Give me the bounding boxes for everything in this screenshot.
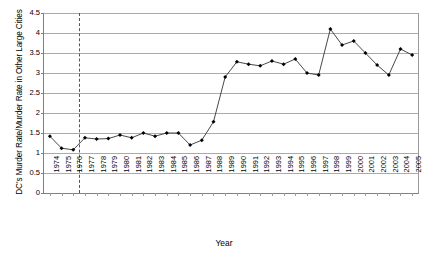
x-tick-label: 1984 [170,156,178,196]
data-point-marker [95,137,99,141]
y-tick-label: 0.5 [18,169,40,177]
x-tick-label: 2004 [403,156,411,196]
data-point-marker [153,134,157,138]
x-tick-label: 1986 [193,156,201,196]
x-tick-label: 1989 [228,156,236,196]
data-point-marker [247,62,251,66]
data-point-marker [165,131,169,135]
x-tick-label: 1993 [275,156,283,196]
x-tick-label: 1977 [88,156,96,196]
x-tick-label: 1992 [263,156,271,196]
y-tick-label: 4.5 [18,9,40,17]
y-tick-label: 0 [18,189,40,197]
x-tick-label: 1998 [333,156,341,196]
x-tick-label: 1994 [287,156,295,196]
y-tick-label: 1.5 [18,129,40,137]
x-tick-label: 1995 [298,156,306,196]
x-tick-label: 2002 [380,156,388,196]
x-tick-label: 1982 [146,156,154,196]
x-tick-label: 1996 [310,156,318,196]
x-axis-title: Year [0,238,430,248]
x-tick-label: 1978 [100,156,108,196]
data-point-marker [106,137,110,141]
x-tick-label: 1991 [252,156,260,196]
data-point-marker [398,47,402,51]
series-polyline [50,29,412,150]
x-axis-tick-labels: 1974197519761977197819791980198119821983… [43,196,417,236]
y-tick-label: 2 [18,109,40,117]
x-tick-label: 1983 [158,156,166,196]
data-point-marker [130,136,134,140]
data-point-marker [118,133,122,137]
x-tick-label: 1976 [76,156,84,196]
y-axis-tick-labels: 00.511.522.533.544.5 [16,0,40,257]
y-tick-mark [41,193,44,194]
x-tick-label: 1988 [216,156,224,196]
x-tick-label: 1979 [111,156,119,196]
x-tick-label: 2005 [415,156,423,196]
x-tick-label: 1985 [181,156,189,196]
y-tick-label: 1 [18,149,40,157]
data-point-marker [258,64,262,68]
x-tick-label: 1990 [240,156,248,196]
x-tick-label: 1981 [135,156,143,196]
x-tick-label: 1974 [53,156,61,196]
data-point-marker [270,59,274,63]
x-tick-label: 2000 [357,156,365,196]
data-point-marker [410,53,414,57]
data-point-marker [317,73,321,77]
x-tick-label: 1980 [123,156,131,196]
y-tick-label: 4 [18,29,40,37]
y-tick-label: 3 [18,69,40,77]
data-point-marker [141,131,145,135]
x-tick-label: 2003 [392,156,400,196]
x-tick-label: 2001 [368,156,376,196]
x-tick-label: 1999 [345,156,353,196]
y-tick-label: 2.5 [18,89,40,97]
data-point-marker [282,62,286,66]
x-tick-label: 1975 [65,156,73,196]
chart-figure: DC's Murder Rate/Murder Rate in Other La… [0,0,430,257]
x-tick-label: 1997 [322,156,330,196]
y-tick-label: 3.5 [18,49,40,57]
x-tick-label: 1987 [205,156,213,196]
